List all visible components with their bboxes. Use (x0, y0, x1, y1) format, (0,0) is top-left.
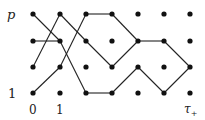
grid-dot (30, 90, 35, 95)
path-edge (164, 67, 190, 93)
col-label-1: 1 (56, 103, 64, 117)
grid-dot (187, 90, 192, 95)
grid-dot (187, 64, 192, 69)
path-edge (112, 67, 138, 93)
grid-dot (109, 38, 114, 43)
grid-dot (83, 11, 88, 16)
grid-dot (57, 38, 62, 43)
grid-dot (83, 64, 88, 69)
grid-dot (109, 90, 114, 95)
row-label-1: 1 (8, 86, 16, 101)
col-label-tau-plus: τ+ (184, 102, 197, 118)
path-edge (164, 41, 190, 67)
path-edge (33, 67, 60, 93)
grid-dot (109, 11, 114, 16)
path-edge (86, 41, 112, 67)
grid-dot (30, 11, 35, 16)
lattice-path-diagram: p 1 0 1 τ+ (0, 0, 205, 120)
path-edge (60, 14, 86, 67)
grid-dot (83, 38, 88, 43)
row-label-p: p (7, 7, 16, 22)
grid-dot (161, 90, 166, 95)
grid-dot (135, 64, 140, 69)
grid-dot (161, 11, 166, 16)
col-label-0: 0 (29, 103, 37, 117)
path-edge (60, 41, 86, 93)
path-edge (112, 14, 138, 41)
grid-dot (30, 38, 35, 43)
grid-dot (109, 64, 114, 69)
grid-dot (57, 11, 62, 16)
grid-dot (135, 11, 140, 16)
grid-dot (161, 38, 166, 43)
path-edges (33, 14, 190, 93)
grid-dot (30, 64, 35, 69)
grid-dot (187, 11, 192, 16)
grid-dot (83, 90, 88, 95)
grid-dot (135, 90, 140, 95)
path-edge (60, 14, 86, 41)
path-edge (112, 41, 138, 67)
grid-dot (161, 64, 166, 69)
grid-dot (187, 38, 192, 43)
grid-dot (57, 64, 62, 69)
grid-dot (135, 38, 140, 43)
grid-dot (57, 90, 62, 95)
path-edge (138, 67, 164, 93)
path-edge (33, 14, 60, 41)
